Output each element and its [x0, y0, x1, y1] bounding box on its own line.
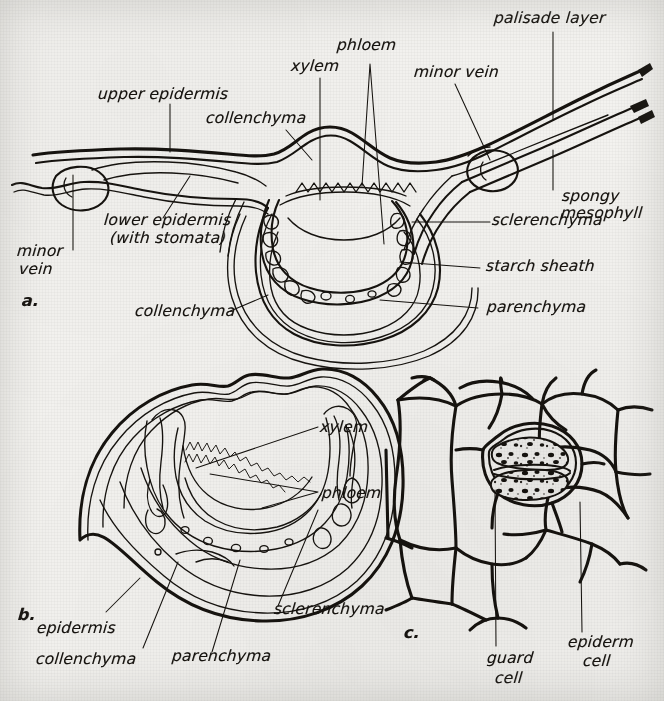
label-phloem-b: phloem: [321, 485, 382, 501]
figure-artwork: .ink { fill:none; stroke:#16130f; stroke…: [0, 0, 664, 701]
label-epiderm-cell-line1: epiderm: [567, 634, 634, 650]
label-palisade-layer: palisade layer: [493, 10, 606, 26]
figure-marker-b: b.: [17, 607, 36, 624]
label-lower-epidermis-line1: lower epidermis: [103, 212, 232, 228]
label-minor-vein-left-line1: minor: [16, 243, 64, 259]
panel-c-leaders: [495, 490, 582, 646]
label-epidermis-b: epidermis: [36, 620, 116, 636]
label-upper-epidermis: upper epidermis: [97, 86, 229, 102]
label-epiderm-cell-line2: cell: [582, 653, 611, 669]
label-collenchyma-b: collenchyma: [35, 651, 137, 667]
label-starch-sheath: starch sheath: [485, 258, 595, 274]
label-minor-vein-left-line2: vein: [18, 261, 53, 277]
label-xylem-a: xylem: [290, 58, 340, 74]
label-parenchyma-a: parenchyma: [486, 299, 587, 315]
figure-page: .ink { fill:none; stroke:#16130f; stroke…: [0, 0, 664, 701]
panel-c-artwork: [386, 370, 652, 630]
label-sclerenchyma-a: sclerenchyma: [491, 212, 603, 228]
figure-marker-c: c.: [403, 625, 420, 642]
label-spongy-mesophyll-line1: spongy: [561, 188, 620, 204]
label-collenchyma-top: collenchyma: [205, 110, 307, 126]
label-sclerenchyma-b: sclerenchyma: [273, 601, 385, 617]
label-guard-cell-line1: guard: [486, 650, 534, 666]
label-lower-epidermis-line2: (with stomata): [109, 230, 227, 246]
figure-marker-a: a.: [21, 293, 40, 310]
label-minor-vein-right: minor vein: [413, 64, 499, 80]
label-parenchyma-b: parenchyma: [171, 648, 272, 664]
label-guard-cell-line2: cell: [494, 670, 523, 686]
label-xylem-b: xylem: [319, 419, 369, 435]
label-collenchyma-bottom: collenchyma: [134, 303, 236, 319]
label-phloem-a: phloem: [336, 37, 397, 53]
